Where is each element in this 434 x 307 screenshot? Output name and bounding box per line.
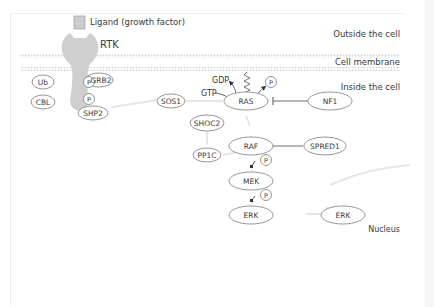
- nf1-label: NF1: [323, 97, 338, 106]
- gtp-label: GTP: [201, 89, 217, 98]
- ligand-icon: [74, 16, 85, 29]
- grb2-label: GRB2: [91, 76, 112, 85]
- phospho-ras-label: P: [269, 79, 273, 87]
- inside-cell-label: Inside the cell: [341, 82, 400, 92]
- ras-mapk-pathway-diagram: Ligand (growth factor) RTK Outside the c…: [0, 0, 434, 307]
- phospho-shp2-label: P: [87, 96, 91, 104]
- erk-label: ERK: [244, 211, 260, 220]
- raf-label: RAF: [244, 142, 258, 151]
- pp1c-label: PP1C: [197, 151, 216, 160]
- shp2-label: SHP2: [83, 109, 103, 118]
- inhibition-lines: [268, 97, 308, 150]
- ras-label: RAS: [239, 97, 254, 106]
- cbl-label: CBL: [36, 98, 51, 107]
- sos1-label: SOS1: [161, 97, 181, 106]
- nucleus-label: Nucleus: [368, 225, 400, 234]
- shoc2-label: SHOC2: [194, 119, 221, 128]
- phospho-mek-label: P: [264, 157, 268, 165]
- spred1-label: SPRED1: [310, 142, 340, 151]
- mek-label: MEK: [243, 177, 260, 186]
- ub-label: Ub: [38, 78, 48, 87]
- gdp-label: GDP: [212, 76, 229, 85]
- outside-cell-label: Outside the cell: [333, 29, 400, 39]
- erk-nuclear-label: ERK: [336, 211, 352, 220]
- ligand-label: Ligand (growth factor): [90, 17, 185, 27]
- cell-membrane-label: Cell membrane: [335, 57, 400, 67]
- phospho-erk-label: P: [264, 192, 268, 200]
- rtk-label: RTK: [100, 39, 119, 50]
- phospho-grb2-label: P: [87, 79, 91, 87]
